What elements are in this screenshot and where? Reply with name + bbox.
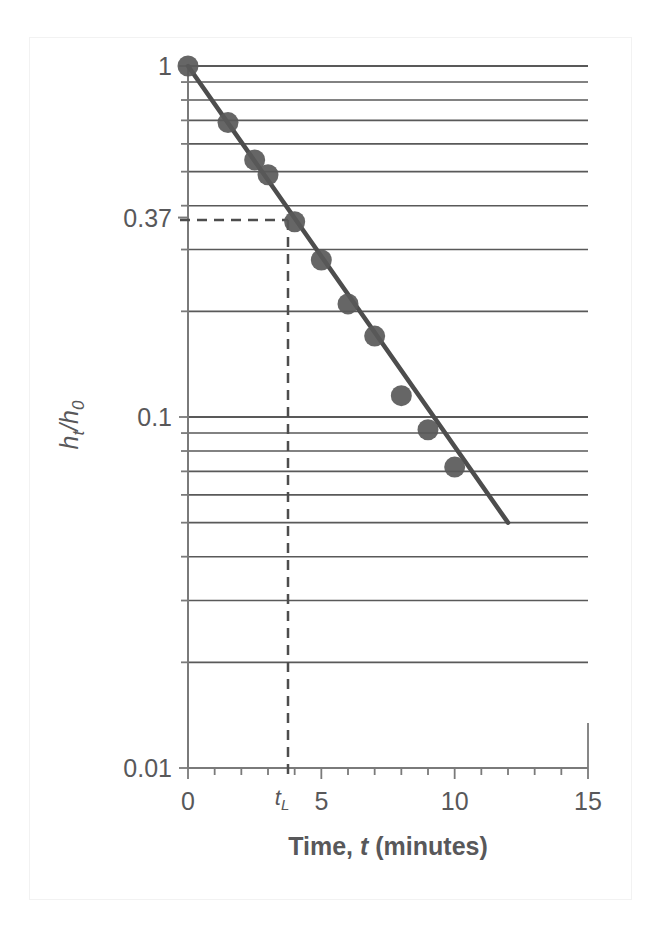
x-axis-ticks-group bbox=[188, 723, 588, 779]
x-title-prefix: Time, bbox=[288, 832, 360, 860]
x-axis-tick-label: 5 bbox=[314, 787, 328, 815]
data-point bbox=[338, 293, 359, 314]
x-axis-labels-group: 051015 bbox=[181, 787, 602, 815]
y-title-h: h bbox=[55, 436, 83, 450]
data-point bbox=[444, 457, 465, 478]
y-axis-tick-label: 0.01 bbox=[123, 754, 172, 782]
x-axis-title: Time, t (minutes) bbox=[288, 832, 488, 860]
y-axis-tick-label: 0.37 bbox=[123, 204, 172, 232]
semilog-decay-chart: 10.370.10.01 051015 ht/h0 Time, t (minut… bbox=[0, 0, 658, 928]
chart-svg: 10.370.10.01 051015 ht/h0 Time, t (minut… bbox=[0, 0, 658, 928]
tl-leader-lines-group bbox=[180, 220, 288, 776]
data-point bbox=[311, 250, 332, 271]
tl-subscript: L bbox=[281, 796, 289, 813]
data-point bbox=[391, 385, 412, 406]
data-point bbox=[418, 419, 439, 440]
y-title-sub-0: 0 bbox=[69, 400, 88, 410]
y-axis-labels-group: 10.370.10.01 bbox=[123, 52, 172, 782]
tl-annotation-label: tL bbox=[275, 785, 289, 813]
x-axis-tick-label: 10 bbox=[441, 787, 469, 815]
x-axis-tick-label: 0 bbox=[181, 787, 195, 815]
gridlines-group bbox=[188, 66, 588, 768]
data-point bbox=[178, 56, 199, 77]
x-title-suffix: (minutes) bbox=[368, 832, 487, 860]
data-point bbox=[284, 211, 305, 232]
y-axis-tick-label: 0.1 bbox=[137, 403, 172, 431]
y-axis-title: ht/h0 bbox=[55, 400, 88, 450]
data-point bbox=[218, 112, 239, 133]
x-axis-tick-label: 15 bbox=[574, 787, 602, 815]
y-axis-ticks-group bbox=[178, 66, 188, 768]
data-point bbox=[258, 164, 279, 185]
y-title-slash-h: /h bbox=[55, 410, 83, 433]
y-axis-tick-label: 1 bbox=[158, 52, 172, 80]
data-point bbox=[364, 326, 385, 347]
data-points-group bbox=[178, 56, 466, 478]
